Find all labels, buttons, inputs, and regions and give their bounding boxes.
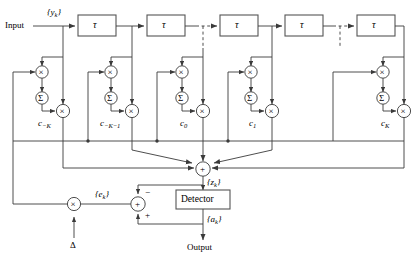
delay-block-4-label: τ [300,20,304,30]
multiply-icon: × [380,68,385,77]
error-adder-icon: + [135,200,140,209]
multiply-icon: × [129,107,134,116]
input-label: Input [5,21,24,30]
sum-icon: Σ [38,94,43,103]
coefficient-label-one: c1 [249,119,256,128]
multiply-icon: × [248,68,253,77]
delay-block-2-label: τ [162,20,166,30]
z-signal-label: {zk} [207,178,221,187]
multiply-icon: × [39,68,44,77]
delay-block-1-label: τ [93,20,97,30]
a-signal-label: {ak} [207,215,222,224]
sum-icon: Σ [379,94,384,103]
detector-label: Detector [181,195,214,205]
coefficient-label-minus-k-1: c−K−1 [100,119,120,128]
minus-sign-label: − [145,188,150,197]
delay-block-5-label: τ [372,20,376,30]
coefficient-label-zero: c0 [180,119,187,128]
adder-icon: + [200,165,205,174]
multiply-icon: × [401,107,406,116]
sum-icon: Σ [178,94,183,103]
sum-icon: Σ [247,94,252,103]
delay-block-3-label: τ [235,20,239,30]
multiply-icon: × [71,200,76,209]
multiply-icon: × [179,68,184,77]
input-signal-label: {yk} [47,8,61,17]
multiply-icon: × [60,107,65,116]
error-signal-label: {ek} [95,190,109,199]
sum-icon: Σ [107,94,112,103]
step-size-label: Δ [70,241,76,250]
multiply-icon: × [108,68,113,77]
equalizer-block-diagram: Input {yk} τ τ τ τ τ × × × × × Σ Σ Σ Σ Σ… [0,0,417,257]
coefficient-label-minus-k: c−K [38,119,51,128]
multiply-icon: × [269,107,274,116]
multiply-icon: × [200,107,205,116]
coefficient-label-k: cK [381,119,389,128]
output-label: Output [187,243,212,252]
plus-sign-label: + [145,211,150,220]
